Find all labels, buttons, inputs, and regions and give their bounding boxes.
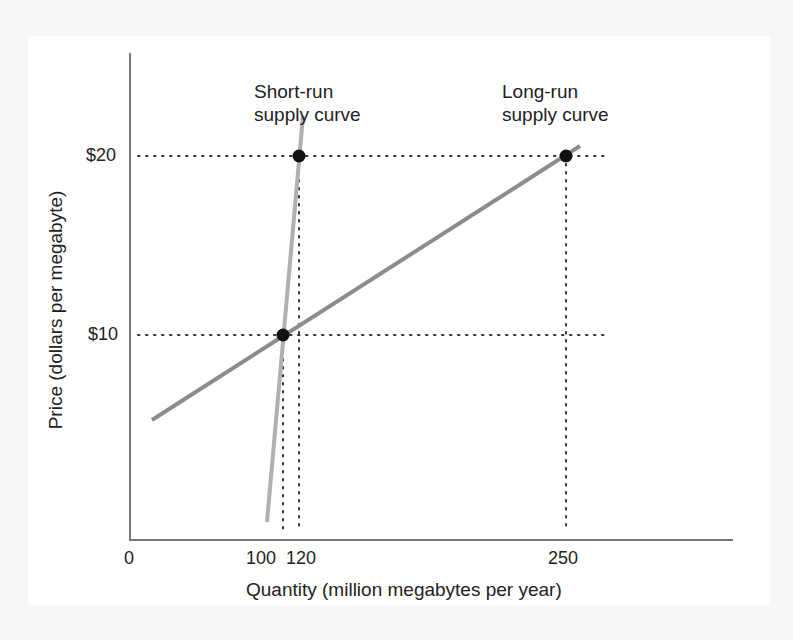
x-tick-0: 0: [124, 548, 134, 569]
long-run-label-line1: Long-run: [502, 80, 609, 103]
long-run-label-line2: supply curve: [502, 103, 609, 126]
y-axis-title: Price (dollars per megabyte): [45, 191, 67, 430]
short-run-label-line2: supply curve: [254, 103, 361, 126]
y-tick-20: $20: [86, 145, 116, 166]
x-axis-title: Quantity (million megabytes per year): [246, 579, 562, 601]
short-run-supply-curve: [267, 116, 303, 522]
reference-lines: [138, 156, 606, 532]
long-run-supply-curve: [152, 146, 580, 420]
supply-chart: Short-run supply curve Long-run supply c…: [0, 0, 793, 640]
chart-plot-area: [0, 0, 793, 640]
y-tick-10: $10: [88, 324, 118, 345]
x-tick-250: 250: [548, 548, 578, 569]
long-run-curve-label: Long-run supply curve: [502, 80, 609, 126]
short-run-curve-label: Short-run supply curve: [254, 80, 361, 126]
point-100-10: [277, 329, 290, 342]
short-run-label-line1: Short-run: [254, 80, 361, 103]
point-250-20: [560, 150, 573, 163]
x-tick-120: 120: [286, 548, 316, 569]
point-120-20: [293, 150, 306, 163]
x-tick-100: 100: [246, 548, 276, 569]
